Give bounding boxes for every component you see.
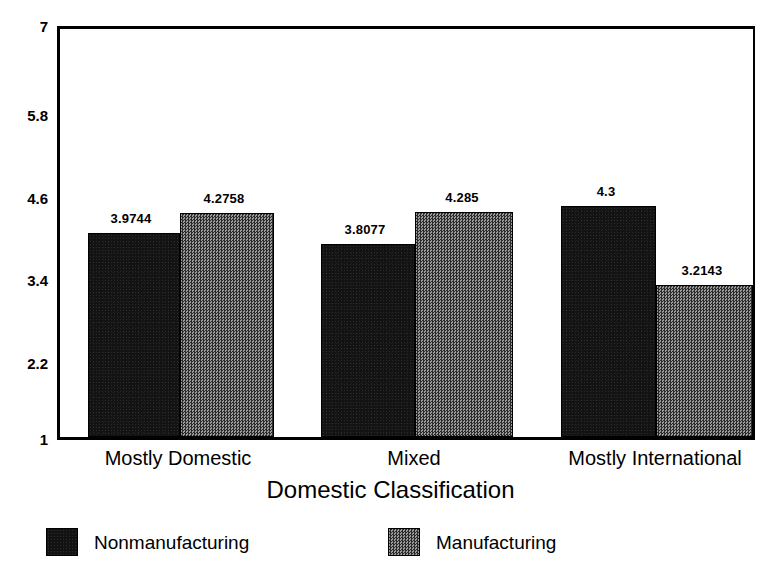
plot-area bbox=[57, 26, 755, 440]
x-axis-label-mostly-domestic: Mostly Domestic bbox=[105, 448, 252, 468]
bar-value-nonmanufacturing-mostly-domestic: 3.9744 bbox=[111, 212, 152, 225]
legend-entry-manufacturing[interactable]: Manufacturing bbox=[388, 528, 556, 556]
bar-nonmanufacturing-mixed[interactable] bbox=[321, 244, 415, 437]
x-axis-label-mostly-international: Mostly International bbox=[568, 448, 741, 468]
bar-manufacturing-mostly-domestic[interactable] bbox=[180, 213, 274, 437]
y-axis-tick-3-4: 3.4 bbox=[0, 273, 48, 288]
bar-value-nonmanufacturing-mostly-international: 4.3 bbox=[597, 185, 616, 198]
bar-chart-figure: 7 5.8 4.6 3.4 2.2 1 3.9744 4.2758 3.8077… bbox=[0, 0, 781, 564]
legend-label-manufacturing: Manufacturing bbox=[436, 533, 556, 552]
x-axis-label-mixed: Mixed bbox=[387, 448, 440, 468]
y-axis-tick-5-8: 5.8 bbox=[0, 107, 48, 122]
legend-swatch-manufacturing-icon bbox=[388, 528, 420, 556]
y-axis-tick-1: 1 bbox=[0, 432, 48, 447]
legend-swatch-nonmanufacturing-icon bbox=[46, 528, 78, 556]
legend-label-nonmanufacturing: Nonmanufacturing bbox=[94, 533, 249, 552]
bar-manufacturing-mixed[interactable] bbox=[415, 212, 513, 437]
y-axis-tick-2-2: 2.2 bbox=[0, 356, 48, 371]
chart-legend: Nonmanufacturing Manufacturing bbox=[0, 528, 781, 564]
bar-nonmanufacturing-mostly-domestic[interactable] bbox=[88, 233, 180, 437]
bar-nonmanufacturing-mostly-international[interactable] bbox=[561, 206, 656, 437]
x-axis-title: Domestic Classification bbox=[0, 478, 781, 502]
bar-manufacturing-mostly-international[interactable] bbox=[656, 285, 753, 437]
bar-value-manufacturing-mostly-domestic: 4.2758 bbox=[204, 192, 245, 205]
y-axis-tick-7: 7 bbox=[0, 19, 48, 34]
y-axis-tick-4-6: 4.6 bbox=[0, 190, 48, 205]
bar-value-nonmanufacturing-mixed: 3.8077 bbox=[345, 223, 386, 236]
bar-value-manufacturing-mixed: 4.285 bbox=[445, 191, 479, 204]
legend-entry-nonmanufacturing[interactable]: Nonmanufacturing bbox=[46, 528, 249, 556]
bar-value-manufacturing-mostly-international: 3.2143 bbox=[682, 264, 723, 277]
